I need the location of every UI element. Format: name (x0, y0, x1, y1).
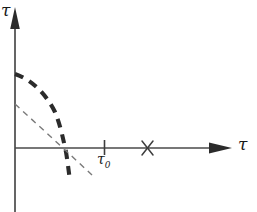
plot-svg (0, 0, 257, 212)
y-axis-arrowhead (10, 7, 20, 29)
tick-tau-zero-label-subscript: 0 (105, 160, 111, 170)
thick-dashed-curve (15, 74, 70, 181)
tick-tau-zero-label-main: τ (97, 151, 105, 167)
x-axis-arrowhead (209, 143, 232, 154)
x-axis-label: τ (238, 136, 247, 153)
figure-canvas: τ τ τ0 (0, 0, 257, 212)
y-axis-label: τ (1, 2, 10, 19)
thin-dashed-line (15, 104, 92, 175)
y-axis (10, 7, 20, 212)
x-axis (15, 143, 232, 154)
tick-tau-zero-label: τ0 (97, 152, 110, 172)
